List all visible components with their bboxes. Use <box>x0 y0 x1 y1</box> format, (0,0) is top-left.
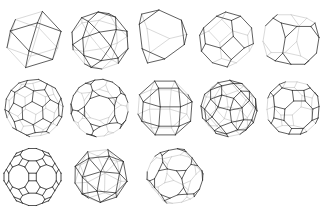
back-edges <box>142 14 187 63</box>
edge <box>46 108 55 113</box>
edge <box>52 181 56 187</box>
wireframe-rhombicuboctahedron <box>138 78 192 138</box>
edge <box>33 81 41 84</box>
edge <box>301 56 309 61</box>
edge <box>62 106 63 117</box>
edge <box>187 197 190 199</box>
edge <box>305 61 309 64</box>
edge <box>38 79 47 84</box>
edge <box>240 110 247 118</box>
edge <box>53 113 54 124</box>
edge <box>236 131 240 134</box>
edge <box>82 93 85 100</box>
edge <box>78 107 85 111</box>
edge <box>252 120 253 123</box>
edge <box>99 30 116 33</box>
front-edges <box>201 80 257 136</box>
edge <box>248 28 252 35</box>
edge <box>313 107 319 109</box>
edge <box>55 185 59 191</box>
edge <box>139 24 142 48</box>
edge <box>42 155 44 159</box>
edge <box>96 136 104 137</box>
edge <box>304 128 307 132</box>
edge <box>209 126 216 134</box>
edge <box>184 34 186 44</box>
edge <box>234 98 242 107</box>
edge <box>170 34 187 38</box>
edge <box>283 38 286 54</box>
edge <box>22 102 32 108</box>
edge <box>316 38 319 54</box>
edge <box>169 149 178 151</box>
edge <box>55 88 61 98</box>
edge <box>231 16 240 20</box>
edge <box>19 158 23 164</box>
edge <box>88 21 99 32</box>
edge <box>13 165 19 167</box>
edge <box>236 110 240 122</box>
edge <box>42 196 44 200</box>
edge <box>23 193 29 195</box>
edge <box>222 83 234 85</box>
edge <box>142 102 143 121</box>
edge <box>228 134 240 136</box>
edge <box>232 122 238 130</box>
edge <box>10 187 12 191</box>
edge <box>97 191 100 202</box>
edge <box>285 101 294 109</box>
solid-truncated-tetrahedron: truncated tetrahedron <box>137 10 189 63</box>
edge <box>199 180 202 189</box>
edge <box>155 171 159 179</box>
edge <box>159 107 160 126</box>
edge <box>23 203 29 205</box>
edge <box>294 82 297 88</box>
edge <box>216 109 224 118</box>
edge <box>75 183 82 194</box>
edge <box>313 120 316 124</box>
edge <box>275 107 285 109</box>
edge <box>222 19 233 31</box>
edge <box>150 109 152 128</box>
edge <box>147 59 164 63</box>
edge <box>95 79 103 80</box>
back-edges <box>263 15 316 61</box>
edge <box>22 83 33 84</box>
front-edges <box>75 150 127 203</box>
edge <box>205 90 211 94</box>
edge <box>33 83 35 91</box>
edge <box>17 93 25 97</box>
edge <box>150 39 170 53</box>
edge <box>180 102 192 107</box>
edge <box>117 93 121 97</box>
edge <box>227 130 238 134</box>
edge <box>78 119 82 123</box>
edge <box>222 59 237 63</box>
edge <box>27 133 35 136</box>
edge <box>240 130 246 134</box>
edge <box>182 170 186 178</box>
wireframe-snub-cube <box>75 147 127 205</box>
edge <box>77 91 81 93</box>
edge <box>139 90 151 95</box>
edge <box>99 89 108 92</box>
edge <box>220 36 233 48</box>
back-edges <box>200 12 254 67</box>
edge <box>292 107 301 115</box>
edge <box>150 179 155 181</box>
edge <box>249 91 255 99</box>
edge <box>97 172 101 191</box>
edge <box>83 21 88 38</box>
edge <box>35 132 46 133</box>
solid-truncated-dodecahedron: truncated dodecahedron <box>71 78 128 138</box>
edge <box>5 99 6 110</box>
edge <box>73 50 84 64</box>
edge <box>220 122 231 126</box>
edge <box>11 83 19 90</box>
edge <box>285 53 301 56</box>
edge <box>139 95 143 102</box>
edge <box>318 96 319 107</box>
edge <box>125 95 128 102</box>
edge <box>159 162 163 171</box>
edge <box>33 90 44 91</box>
